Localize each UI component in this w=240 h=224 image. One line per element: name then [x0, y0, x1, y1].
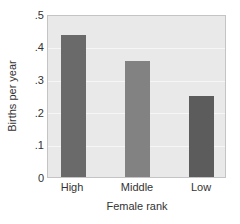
y-axis-label: Births per year [6, 46, 18, 146]
y-tick-2: .2 [24, 107, 44, 119]
bar-middle [125, 61, 150, 177]
y-tick-4: .4 [24, 41, 44, 53]
plot-area [47, 15, 226, 178]
x-axis-label: Female rank [97, 200, 177, 212]
bar-low [189, 96, 214, 177]
y-tick-5: .5 [24, 9, 44, 21]
x-tick-high: High [42, 181, 102, 194]
x-tick-low: Low [171, 181, 231, 194]
y-tick-3: .3 [24, 74, 44, 86]
bar-high [61, 35, 86, 177]
bar-chart: Births per year 0 .1 .2 .3 .4 .5 High Mi… [0, 0, 240, 224]
y-tick-1: .1 [24, 139, 44, 151]
y-tick-0: 0 [24, 172, 44, 184]
x-tick-middle: Middle [107, 181, 167, 194]
